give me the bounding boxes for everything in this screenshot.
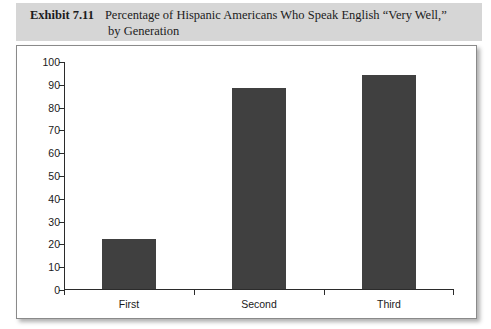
y-tick-label: 30: [48, 216, 60, 228]
exhibit-number-label: Exhibit 7.11: [30, 8, 94, 22]
bar-second: [232, 88, 286, 289]
x-tick-mark: [194, 290, 195, 295]
plot-area: 0102030405060708090100 FirstSecondThird: [64, 62, 454, 290]
x-axis-label-second: Second: [241, 298, 277, 310]
y-tick-label: 0: [54, 284, 60, 296]
y-tick-label: 100: [42, 56, 60, 68]
y-tick-label: 40: [48, 193, 60, 205]
y-tick-label: 50: [48, 170, 60, 182]
x-tick-mark: [64, 290, 65, 295]
y-tick-label: 60: [48, 147, 60, 159]
bar-third: [362, 75, 416, 289]
bar-first: [102, 239, 156, 289]
exhibit-title-line-1: Exhibit 7.11Percentage of Hispanic Ameri…: [30, 7, 472, 23]
y-axis-line: [64, 62, 65, 290]
x-tick-mark: [453, 290, 454, 295]
y-tick-label: 80: [48, 102, 60, 114]
y-tick-label: 90: [48, 79, 60, 91]
exhibit-title-line-2: by Generation: [30, 23, 472, 39]
exhibit-title-text: Percentage of Hispanic Americans Who Spe…: [105, 8, 447, 22]
x-axis-line: [64, 289, 454, 290]
y-tick-label: 20: [48, 238, 60, 250]
x-axis-label-first: First: [119, 298, 139, 310]
x-axis-label-third: Third: [377, 298, 401, 310]
exhibit-header-band: Exhibit 7.11Percentage of Hispanic Ameri…: [16, 3, 482, 41]
y-tick-label: 70: [48, 124, 60, 136]
x-tick-mark: [324, 290, 325, 295]
y-tick-label: 10: [48, 261, 60, 273]
chart-frame: 0102030405060708090100 FirstSecondThird: [16, 45, 477, 319]
